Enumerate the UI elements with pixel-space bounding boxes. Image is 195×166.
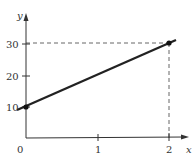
- data-point-end: [166, 40, 171, 45]
- y-tick-label-30: 30: [6, 39, 19, 50]
- x-axis: [26, 137, 185, 138]
- line-chart: y x 30 20 10 0 1 2: [0, 0, 195, 166]
- x-tick-label-1: 1: [95, 144, 101, 155]
- y-axis-arrow-icon: [24, 13, 29, 21]
- x-tick-label-2: 2: [166, 144, 172, 155]
- y-tick-label-10: 10: [6, 102, 19, 113]
- x-axis-arrow-icon: [181, 135, 189, 140]
- origin-label: 0: [17, 144, 23, 155]
- data-line: [17, 40, 176, 110]
- y-tick-label-20: 20: [6, 71, 19, 82]
- y-axis-label: y: [16, 10, 23, 21]
- data-point-start: [23, 104, 28, 109]
- x-axis-label: x: [186, 144, 192, 155]
